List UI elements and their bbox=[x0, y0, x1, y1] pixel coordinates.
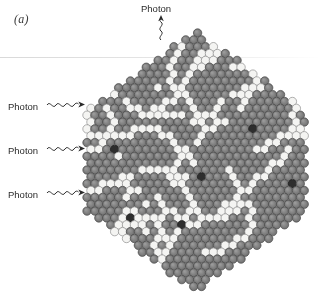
photon-wavy-arrow-right-icon-3 bbox=[47, 186, 87, 200]
figure-panel-a: (a) Photon Photon Photon Photon bbox=[0, 0, 321, 297]
photon-label-top: Photon bbox=[141, 3, 171, 14]
photon-wavy-arrow-right-icon-2 bbox=[47, 142, 87, 156]
photon-wavy-arrow-right-icon-1 bbox=[47, 98, 87, 112]
photon-label-left-2: Photon bbox=[8, 145, 38, 156]
photon-label-left-1: Photon bbox=[8, 101, 38, 112]
photon-label-left-3: Photon bbox=[8, 189, 38, 200]
photon-wavy-arrow-up-icon bbox=[154, 14, 170, 40]
panel-label: (a) bbox=[14, 12, 29, 27]
